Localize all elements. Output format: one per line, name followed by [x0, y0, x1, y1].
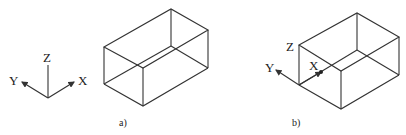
axis-triad-a: Z Y X: [9, 50, 88, 98]
x-axis: [48, 82, 74, 98]
caption-a: a): [119, 117, 127, 129]
caption-b: b): [292, 117, 300, 129]
z-label-b: Z: [286, 39, 294, 54]
z-label: Z: [43, 50, 51, 65]
y-label-b: Y: [265, 60, 275, 75]
y-label: Y: [9, 73, 19, 88]
figure: Z Y X a) Z Y X b): [0, 0, 406, 135]
x-label: X: [78, 73, 88, 88]
y-axis-b: [276, 70, 299, 85]
axis-triad-b: Z Y X: [265, 39, 323, 85]
x-axis-b: [299, 72, 321, 85]
y-axis: [22, 82, 48, 98]
x-axis-point: [319, 70, 323, 74]
x-label-b: X: [309, 58, 319, 73]
box-a: [104, 9, 208, 106]
